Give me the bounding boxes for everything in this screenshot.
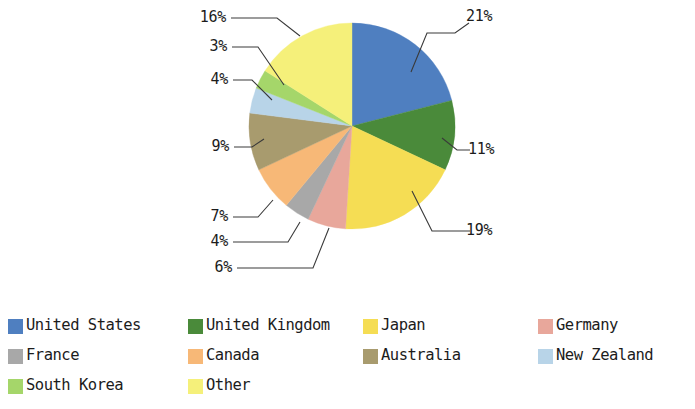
leader-line-canada [233, 200, 273, 217]
pie-label-united-states: 21% [466, 9, 492, 24]
legend-item-united-kingdom[interactable]: United Kingdom [188, 311, 363, 341]
leader-line-france [233, 222, 300, 242]
legend-swatch-south-korea [8, 379, 23, 394]
legend-label-united-states: United States [26, 318, 141, 334]
legend-row: FranceCanadaAustraliaNew Zealand [8, 341, 695, 371]
pie-label-australia: 9% [163, 139, 229, 154]
legend-item-canada[interactable]: Canada [188, 341, 363, 371]
legend-swatch-other [188, 379, 203, 394]
legend-label-other: Other [206, 378, 250, 394]
pie-label-new-zealand: 4% [162, 72, 228, 87]
legend-item-other[interactable]: Other [188, 371, 363, 401]
pie-slice-group [249, 23, 455, 229]
legend-row: United StatesUnited KingdomJapanGermany [8, 311, 695, 341]
legend-label-new-zealand: New Zealand [556, 348, 653, 364]
pie-label-france: 4% [162, 234, 228, 249]
pie-label-united-kingdom: 11% [468, 142, 494, 157]
pie-label-other: 16% [150, 10, 226, 25]
legend-label-japan: Japan [381, 318, 425, 334]
leader-line-germany [237, 228, 329, 268]
legend-item-united-states[interactable]: United States [8, 311, 188, 341]
legend-label-canada: Canada [206, 348, 259, 364]
legend-swatch-france [8, 349, 23, 364]
legend-item-south-korea[interactable]: South Korea [8, 371, 188, 401]
legend-item-japan[interactable]: Japan [363, 311, 538, 341]
legend-row: South KoreaOther [8, 371, 695, 401]
legend-swatch-united-kingdom [188, 319, 203, 334]
pie-label-japan: 19% [466, 223, 492, 238]
pie-label-germany: 6% [166, 260, 232, 275]
leader-line-other [231, 18, 300, 36]
pie-label-canada: 7% [162, 209, 228, 224]
legend-swatch-united-states [8, 319, 23, 334]
legend-label-australia: Australia [381, 348, 461, 364]
chart-legend: United StatesUnited KingdomJapanGermanyF… [8, 311, 695, 407]
legend-item-new-zealand[interactable]: New Zealand [538, 341, 693, 371]
legend-label-south-korea: South Korea [26, 378, 123, 394]
legend-swatch-australia [363, 349, 378, 364]
pie-label-south-korea: 3% [161, 39, 227, 54]
legend-swatch-canada [188, 349, 203, 364]
legend-swatch-germany [538, 319, 553, 334]
legend-item-germany[interactable]: Germany [538, 311, 693, 341]
pie-chart-svg [0, 0, 695, 300]
legend-swatch-japan [363, 319, 378, 334]
legend-label-united-kingdom: United Kingdom [206, 318, 330, 334]
legend-swatch-new-zealand [538, 349, 553, 364]
legend-label-germany: Germany [556, 318, 618, 334]
legend-item-australia[interactable]: Australia [363, 341, 538, 371]
legend-label-france: France [26, 348, 79, 364]
pie-chart-figure: 21% 11% 19% 6% 4% 7% 9% 4% 3% 16% United… [0, 0, 695, 409]
pie-plot-area: 21% 11% 19% 6% 4% 7% 9% 4% 3% 16% [0, 0, 695, 300]
legend-item-france[interactable]: France [8, 341, 188, 371]
